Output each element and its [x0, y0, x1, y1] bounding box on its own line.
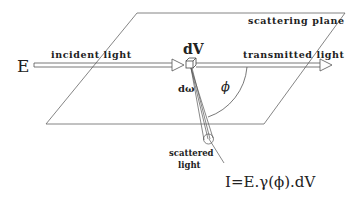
scattering-plane: [46, 13, 345, 124]
incident-arrowhead: [172, 59, 184, 71]
solid-angle-label: dω: [178, 83, 195, 94]
scattered-label-line2: light: [178, 160, 201, 170]
incident-beam: [34, 59, 184, 71]
volume-label: dV: [183, 41, 205, 57]
incident-light-label: incident light: [51, 49, 132, 60]
field-label: E: [17, 56, 29, 76]
intensity-equation: I=E.γ(ϕ).dV: [225, 173, 316, 191]
transmitted-arrowhead: [320, 59, 332, 71]
scattered-label-line1: scattered: [169, 148, 214, 158]
transmitted-beam: [196, 59, 332, 71]
cone-aperture: [204, 134, 214, 144]
scattering-diagram: E incident light dV transmitted light sc…: [0, 0, 356, 204]
volume-element-cube: [186, 58, 196, 68]
scattering-plane-label: scattering plane: [248, 15, 345, 26]
angle-phi-label: ϕ: [221, 79, 230, 94]
transmitted-light-label: transmitted light: [243, 49, 345, 60]
